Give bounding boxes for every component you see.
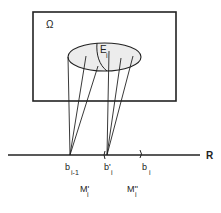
- diagram-canvas: Ω E i R b i-1 b' i b i M' i M'' i: [0, 0, 221, 213]
- interval-mark-b-i: [140, 150, 142, 158]
- point-subscript-b-i: i: [149, 169, 151, 176]
- point-label-b-i-minus-1: b: [65, 162, 70, 172]
- omega-label: Ω: [46, 19, 54, 30]
- point-label-b-i: b: [142, 162, 147, 172]
- projection-line: [107, 58, 121, 155]
- axis-label-r: R: [206, 150, 214, 161]
- projection-line: [70, 66, 98, 155]
- point-subscript-b-i-minus-1: i-1: [71, 169, 79, 176]
- projection-line: [70, 56, 86, 155]
- point-subscript-b-prime-i: i: [111, 169, 113, 176]
- projection-line: [68, 57, 70, 155]
- point-label-b-prime-i: b': [104, 162, 111, 172]
